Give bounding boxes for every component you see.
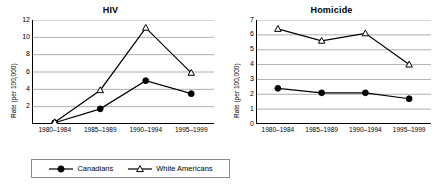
series-line-white-americans bbox=[278, 29, 409, 65]
x-tick-label: 1980–1984 bbox=[29, 126, 81, 133]
y-tick-label: 2 bbox=[238, 90, 254, 97]
chart-panel-hiv: HIV Rate (per 100,000) 24681012 1980–198… bbox=[0, 0, 221, 150]
series-line-white-americans bbox=[55, 28, 192, 122]
y-tick-label: 12 bbox=[14, 16, 30, 23]
plot-svg-hiv bbox=[32, 20, 214, 124]
y-tick-label: 4 bbox=[14, 85, 30, 92]
chart-title-hiv: HIV bbox=[0, 5, 221, 15]
chart-legend: Canadians White Americans bbox=[31, 159, 230, 178]
y-tick-label: 4 bbox=[238, 60, 254, 67]
y-tick-label: 8 bbox=[14, 50, 30, 57]
data-point-white-americans bbox=[406, 61, 412, 67]
y-tick-label: 1 bbox=[238, 105, 254, 112]
filled-circle-marker-icon bbox=[48, 164, 74, 174]
data-point-canadians bbox=[362, 90, 368, 96]
plot-area-hiv bbox=[32, 20, 214, 124]
x-tick-label: 1985–1989 bbox=[297, 126, 347, 133]
series-line-canadians bbox=[55, 81, 192, 123]
data-point-canadians bbox=[97, 106, 103, 112]
data-point-canadians bbox=[143, 78, 149, 84]
data-point-canadians bbox=[319, 90, 325, 96]
y-tick-label: 10 bbox=[14, 33, 30, 40]
y-tick-label: 5 bbox=[238, 45, 254, 52]
data-point-white-americans bbox=[362, 30, 368, 36]
legend-entry-canadians: Canadians bbox=[48, 164, 113, 174]
y-tick-label: 7 bbox=[238, 16, 254, 23]
legend-label-white-americans: White Americans bbox=[156, 164, 212, 173]
y-tick-label: 3 bbox=[238, 75, 254, 82]
y-tick-label: 2 bbox=[14, 102, 30, 109]
data-point-white-americans bbox=[143, 24, 149, 30]
x-tick-label: 1995–1999 bbox=[165, 126, 217, 133]
open-triangle-marker-icon bbox=[127, 164, 153, 174]
figure-root: HIV Rate (per 100,000) 24681012 1980–198… bbox=[0, 0, 442, 185]
y-tick-label: 6 bbox=[238, 30, 254, 37]
data-point-white-americans bbox=[275, 26, 281, 32]
plot-svg-homicide bbox=[256, 20, 431, 124]
y-tick-label: 6 bbox=[14, 68, 30, 75]
x-tick-label: 1990–1994 bbox=[120, 126, 172, 133]
x-tick-label: 1995–1999 bbox=[384, 126, 434, 133]
chart-panel-homicide: Homicide Rate (per 100,000) 01234567 198… bbox=[221, 0, 442, 150]
data-point-canadians bbox=[188, 91, 194, 97]
x-tick-label: 1990–1994 bbox=[340, 126, 390, 133]
x-tick-label: 1980–1984 bbox=[253, 126, 303, 133]
data-point-canadians bbox=[406, 96, 412, 102]
plot-area-homicide bbox=[256, 20, 431, 124]
y-tick-label: 0 bbox=[238, 120, 254, 127]
legend-label-canadians: Canadians bbox=[77, 164, 113, 173]
data-point-canadians bbox=[275, 85, 281, 91]
chart-title-homicide: Homicide bbox=[221, 5, 442, 15]
legend-entry-white-americans: White Americans bbox=[127, 164, 212, 174]
series-line-canadians bbox=[278, 88, 409, 98]
x-tick-label: 1985–1989 bbox=[74, 126, 126, 133]
